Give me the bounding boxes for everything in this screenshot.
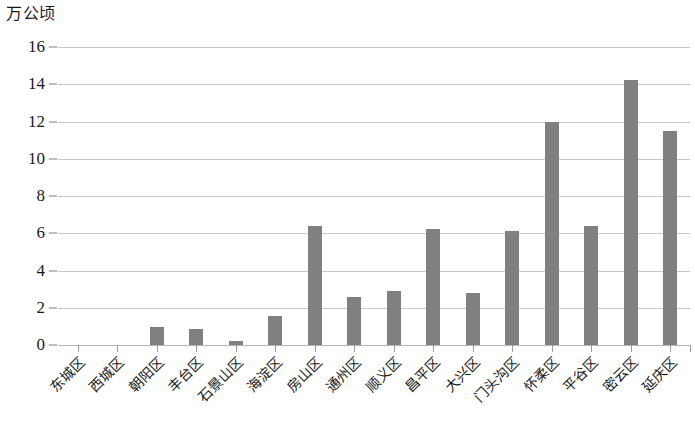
y-axis-tick-mark <box>49 233 57 234</box>
x-axis-tick-mark <box>236 345 237 352</box>
y-axis-tick-mark <box>49 196 57 197</box>
x-axis-tick-mark <box>670 345 671 352</box>
y-axis-tick-label: 6 <box>0 224 45 241</box>
x-axis-tick <box>651 345 691 352</box>
y-axis-tick-mark <box>49 158 57 159</box>
x-axis-label-slot: 顺义区 <box>374 352 414 432</box>
x-axis-tick <box>216 345 256 352</box>
y-axis-tick-label: 2 <box>0 299 45 316</box>
x-axis-label-slot: 石景山区 <box>216 352 256 432</box>
x-axis-label-slot: 房山区 <box>295 352 335 432</box>
x-axis-tick-mark <box>512 345 513 352</box>
x-axis-tick-mark <box>473 345 474 352</box>
y-axis-tick-mark <box>49 307 57 308</box>
x-axis-tick <box>532 345 572 352</box>
y-axis-tick-label: 0 <box>0 336 45 353</box>
x-axis-label-slot: 东城区 <box>58 352 98 432</box>
x-axis-tick <box>58 345 98 352</box>
x-axis-tick-mark <box>433 345 434 352</box>
x-axis-tick-mark <box>552 345 553 352</box>
x-axis-label-slot: 延庆区 <box>651 352 691 432</box>
x-axis-tick <box>493 345 533 352</box>
x-axis-labels: 东城区西城区朝阳区丰台区石景山区海淀区房山区通州区顺义区昌平区大兴区门头沟区怀柔… <box>58 352 690 432</box>
y-axis-unit-label: 万公顷 <box>6 4 56 24</box>
x-axis-tick <box>177 345 217 352</box>
y-axis-tick-label: 12 <box>0 113 45 130</box>
y-axis-tick-label: 10 <box>0 150 45 167</box>
x-axis-tick-mark <box>354 345 355 352</box>
x-axis-tick <box>98 345 138 352</box>
x-axis-tick-mark <box>275 345 276 352</box>
bar-chart: 万公顷 1614121086420 东城区西城区朝阳区丰台区石景山区海淀区房山区… <box>0 0 695 432</box>
y-axis-tick-mark <box>49 84 57 85</box>
y-axis-tick-mark <box>49 47 57 48</box>
x-axis-tick-mark <box>117 345 118 352</box>
y-axis-tick-label: 4 <box>0 262 45 279</box>
x-axis-tick <box>256 345 296 352</box>
y-axis: 1614121086420 <box>58 47 690 345</box>
x-axis-tick <box>137 345 177 352</box>
x-axis-tick <box>453 345 493 352</box>
x-axis-ticks <box>58 345 690 352</box>
x-axis-tick <box>572 345 612 352</box>
x-axis-tick-mark <box>591 345 592 352</box>
x-axis-tick-mark <box>394 345 395 352</box>
x-axis-label-slot: 昌平区 <box>414 352 454 432</box>
x-axis-label-slot: 西城区 <box>98 352 138 432</box>
x-axis-tick <box>295 345 335 352</box>
x-axis-tick-mark <box>631 345 632 352</box>
x-axis-tick-mark <box>157 345 158 352</box>
x-axis-label-slot: 门头沟区 <box>493 352 533 432</box>
y-axis-tick-label: 16 <box>0 38 45 55</box>
y-axis-tick-label: 14 <box>0 75 45 92</box>
y-axis-tick-mark <box>49 121 57 122</box>
x-axis-tick-mark <box>196 345 197 352</box>
x-axis-tick <box>414 345 454 352</box>
x-axis-tick <box>374 345 414 352</box>
x-axis-label-slot: 朝阳区 <box>137 352 177 432</box>
x-axis-tick-label: 东城区 <box>47 354 88 395</box>
x-axis-tick <box>611 345 651 352</box>
x-axis-label-slot: 怀柔区 <box>532 352 572 432</box>
x-axis-label-slot: 平谷区 <box>572 352 612 432</box>
x-axis-tick <box>335 345 375 352</box>
x-axis-tick-mark <box>78 345 79 352</box>
x-axis-label-slot: 海淀区 <box>256 352 296 432</box>
x-axis-label-slot: 通州区 <box>335 352 375 432</box>
y-axis-tick-mark <box>49 345 57 346</box>
x-axis-tick-mark <box>690 345 691 352</box>
x-axis-label-slot: 密云区 <box>611 352 651 432</box>
x-axis-tick-mark <box>315 345 316 352</box>
y-axis-tick-mark <box>49 270 57 271</box>
y-axis-tick-label: 8 <box>0 187 45 204</box>
